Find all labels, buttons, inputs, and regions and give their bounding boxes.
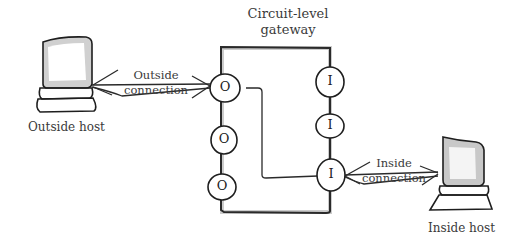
inside-port-3: I: [321, 166, 341, 181]
gateway-title-line2: gateway: [238, 22, 338, 38]
inside-connection-line1: Inside: [356, 156, 432, 171]
gateway-title-line1: Circuit-level: [238, 6, 338, 22]
outside-port-2: O: [214, 131, 234, 146]
outside-port-3: O: [212, 178, 232, 193]
outside-host-label: Outside host: [28, 120, 105, 134]
outside-host-computer-icon: [37, 37, 96, 112]
inside-port-2: I: [320, 117, 340, 132]
inside-connection-label: Inside connection: [356, 156, 432, 186]
inside-connection-line2: connection: [356, 171, 432, 186]
inside-host-computer-icon: [430, 137, 492, 210]
inside-host-label: Inside host: [428, 221, 495, 235]
inside-port-1: I: [320, 73, 340, 88]
gateway-title: Circuit-level gateway: [238, 6, 338, 38]
outside-connection-line1: Outside: [118, 68, 194, 83]
outside-connection-line2: connection: [118, 83, 194, 98]
relay-path: [246, 88, 318, 178]
outside-port-1: O: [215, 79, 235, 94]
gateway-box: [221, 47, 330, 213]
outside-connection-label: Outside connection: [118, 68, 194, 98]
